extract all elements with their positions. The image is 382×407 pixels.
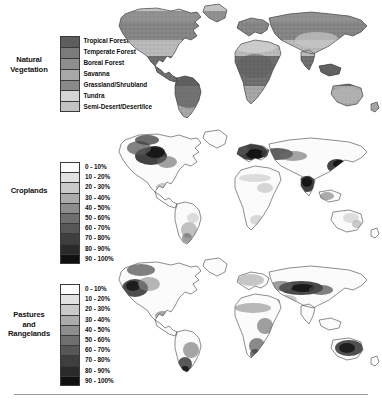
panel-title-pastures-and-rangelands: Pastures and Rangelands	[0, 310, 58, 339]
legend-swatch	[60, 366, 80, 376]
panel-title-line: Rangelands	[0, 329, 58, 339]
legend-swatch	[60, 47, 80, 58]
legend-swatch	[60, 376, 80, 386]
legend-swatch	[60, 101, 80, 112]
panel-title-line: Pastures	[0, 310, 58, 320]
legend-swatch	[60, 325, 80, 335]
map-svg-pastures-and-rangelands	[105, 254, 382, 386]
legend-swatch	[60, 80, 80, 91]
legend-swatch	[60, 36, 80, 47]
legend-swatch	[60, 315, 80, 325]
legend-swatch	[60, 193, 80, 203]
footer-divider	[14, 394, 368, 395]
legend-label: 0 - 10%	[85, 162, 107, 172]
legend-swatch	[60, 90, 80, 101]
legend-swatch	[60, 58, 80, 69]
map-natural-vegetation	[105, 0, 382, 126]
legend-swatch	[60, 203, 80, 213]
legend-label: 0 - 10%	[85, 284, 107, 294]
map-landmass-fill	[105, 126, 382, 254]
legend-swatch	[60, 335, 80, 345]
legend-swatch	[60, 69, 80, 80]
legend-swatch	[60, 223, 80, 233]
land-use-map-figure: Natural Vegetation Tropical Forest Tempe…	[0, 0, 382, 407]
legend-swatch	[60, 294, 80, 304]
panel-title-croplands: Croplands	[0, 186, 58, 196]
legend-swatch	[60, 182, 80, 192]
legend-swatch	[60, 162, 80, 172]
panel-natural-vegetation: Natural Vegetation Tropical Forest Tempe…	[0, 0, 382, 126]
map-pastures-and-rangelands	[105, 254, 382, 386]
panel-title-line: Vegetation	[0, 65, 58, 75]
legend-swatch	[60, 284, 80, 294]
legend-label: Tundra	[84, 91, 105, 101]
panel-pastures-and-rangelands: Pastures and Rangelands 0 - 10% 10 - 20%…	[0, 254, 382, 386]
panel-title-natural-vegetation: Natural Vegetation	[0, 55, 58, 74]
legend-swatch	[60, 345, 80, 355]
panel-title-line: Natural	[0, 55, 58, 65]
legend-swatch	[60, 233, 80, 243]
legend-swatch	[60, 213, 80, 223]
panel-croplands: Croplands 0 - 10% 10 - 20% 20 - 30% 30 -…	[0, 126, 382, 254]
map-croplands	[105, 126, 382, 254]
legend-swatch	[60, 355, 80, 365]
map-landmass-fill	[105, 0, 382, 126]
map-landmass-fill	[105, 254, 382, 386]
map-svg-natural-vegetation	[105, 0, 382, 126]
legend-swatch	[60, 172, 80, 182]
panel-title-line: and	[0, 320, 58, 330]
legend-swatch	[60, 244, 80, 254]
panel-title-line: Croplands	[0, 186, 58, 196]
legend-swatch	[60, 304, 80, 314]
map-svg-croplands	[105, 126, 382, 254]
